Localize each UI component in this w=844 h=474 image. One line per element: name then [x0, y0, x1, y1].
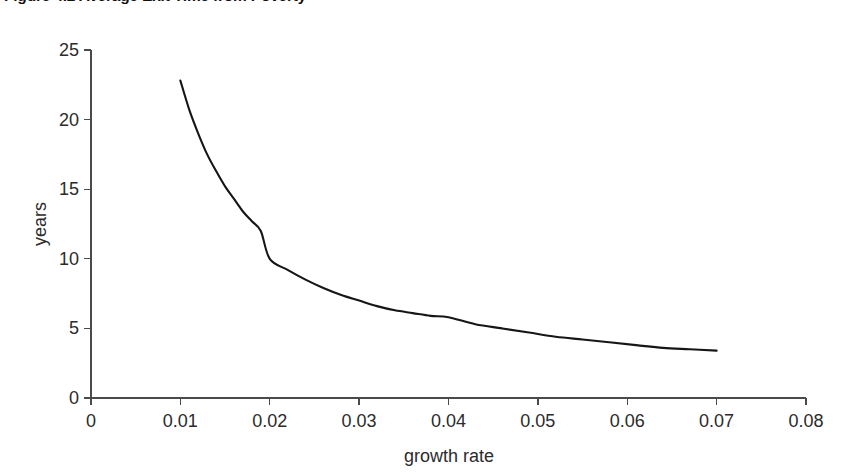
y-tick-label: 25: [59, 40, 79, 60]
x-tick-label: 0.04: [431, 411, 466, 431]
x-tick-label: 0.02: [252, 411, 287, 431]
x-tick-label: 0: [86, 411, 96, 431]
x-tick-label: 0.01: [163, 411, 198, 431]
x-axis-title: growth rate: [404, 446, 494, 466]
y-tick-label: 0: [69, 388, 79, 408]
y-tick-label: 10: [59, 249, 79, 269]
y-axis-ticks: 0510152025: [59, 40, 91, 408]
y-tick-label: 15: [59, 179, 79, 199]
y-tick-label: 5: [69, 318, 79, 338]
figure-container: Figure 4.2 Average Exit Time from Povert…: [0, 0, 844, 474]
data-line-average-exit-time: [180, 81, 716, 351]
x-tick-label: 0.05: [520, 411, 555, 431]
x-tick-label: 0.07: [699, 411, 734, 431]
x-tick-label: 0.06: [610, 411, 645, 431]
chart-plot-area: 0510152025 00.010.020.030.040.050.060.07…: [0, 0, 844, 474]
x-axis-ticks: 00.010.020.030.040.050.060.070.08: [86, 398, 824, 431]
y-tick-label: 20: [59, 110, 79, 130]
x-tick-label: 0.03: [342, 411, 377, 431]
x-tick-label: 0.08: [788, 411, 823, 431]
y-axis-title: years: [30, 202, 50, 246]
